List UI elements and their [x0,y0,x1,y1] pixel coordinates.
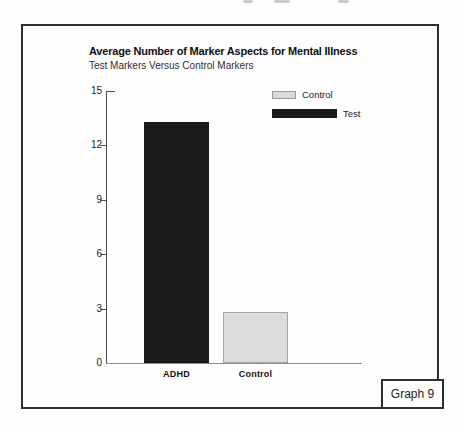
x-label-control: Control [224,369,288,379]
y-tick-label: 15 [70,86,102,96]
x-label-adhd: ADHD [145,369,209,379]
legend: ControlTest [272,87,360,125]
y-axis-line [106,91,107,363]
clipped-text-artifact [243,0,253,3]
chart-subtitle: Test Markers Versus Control Markers [89,60,254,71]
graph-number-label: Graph 9 [391,387,434,401]
y-tick-mark [100,309,106,310]
y-tick-label: 0 [70,358,102,368]
clipped-text-artifact [338,0,349,3]
y-tick-mark [100,254,106,255]
y-tick-mark [107,91,115,92]
y-tick-label: 3 [70,304,102,314]
legend-swatch-control [272,91,296,99]
legend-swatch-test [272,109,337,118]
legend-label-test: Test [343,108,360,119]
y-tick-mark [100,145,106,146]
x-axis-line [106,363,362,364]
chart-title: Average Number of Marker Aspects for Men… [89,45,357,57]
legend-row: Control [272,87,360,102]
legend-label-control: Control [302,89,333,100]
scanned-page: Average Number of Marker Aspects for Men… [0,0,461,431]
y-tick-mark [100,200,106,201]
legend-row: Test [272,106,360,121]
clipped-text-artifact [274,0,290,3]
y-tick-label: 9 [70,195,102,205]
y-tick-label: 12 [70,140,102,150]
bar-control [223,312,288,363]
bar-adhd [144,122,209,363]
y-tick-label: 6 [70,249,102,259]
graph-number-box: Graph 9 [381,379,444,409]
